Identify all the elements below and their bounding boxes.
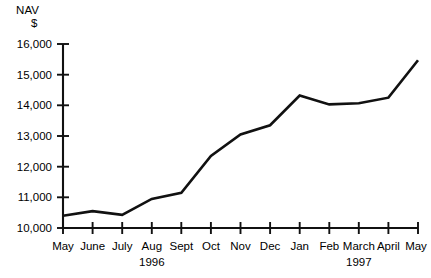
y-axis-label-14000: 14,000	[0, 99, 52, 111]
nav-data-line	[63, 60, 418, 215]
year-annotation-1997: 1997	[346, 256, 372, 268]
x-axis-label-dec: Dec	[260, 240, 280, 252]
y-axis-label-12000: 12,000	[0, 161, 52, 173]
y-axis-label-10000: 10,000	[0, 222, 52, 234]
x-axis-label-july: July	[112, 240, 132, 252]
chart-title-currency: $	[31, 17, 38, 30]
y-axis-label-13000: 13,000	[0, 130, 52, 142]
x-axis-label-june: June	[80, 240, 105, 252]
chart-canvas	[0, 0, 431, 278]
x-axis-label-nov: Nov	[230, 240, 250, 252]
chart-title-nav: NAV	[16, 4, 39, 17]
x-axis-label-may-1997: May	[405, 240, 427, 252]
x-axis-label-march: March	[343, 240, 375, 252]
nav-line-chart: NAV $ 16,000 15,000 14,000 13,000 12,000…	[0, 0, 431, 278]
x-axis-label-april: April	[377, 240, 400, 252]
y-axis-label-16000: 16,000	[0, 38, 52, 50]
x-axis-label-may-1996: May	[52, 240, 74, 252]
year-annotation-1996: 1996	[139, 256, 165, 268]
x-axis-label-jan: Jan	[290, 240, 309, 252]
x-axis-label-aug: Aug	[142, 240, 162, 252]
y-axis-label-11000: 11,000	[0, 191, 52, 203]
x-axis-label-oct: Oct	[202, 240, 220, 252]
x-axis-label-sept: Sept	[169, 240, 193, 252]
y-axis-label-15000: 15,000	[0, 69, 52, 81]
x-axis-label-feb: Feb	[319, 240, 339, 252]
